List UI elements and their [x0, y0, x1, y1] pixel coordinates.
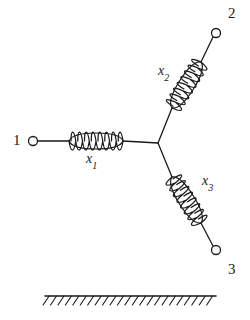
ground-hatch-tick	[88, 296, 94, 305]
spring-label-x2-subscript: 2	[164, 72, 169, 83]
node-3-marker	[212, 246, 221, 255]
spring-label-x1-subscript: 1	[92, 160, 97, 171]
ground-hatch-tick	[43, 296, 49, 305]
conn-spring2-node2	[201, 37, 213, 62]
spring-label-x3-subscript: 3	[208, 182, 213, 193]
ground-hatch-tick	[73, 296, 79, 305]
ground-hatch-tick	[192, 296, 198, 305]
ground-hatch-tick	[177, 296, 183, 305]
ground-hatch-tick	[110, 296, 116, 305]
spring-x2-coils	[166, 59, 207, 110]
spring-label-x3: x3	[202, 174, 213, 191]
ground-hatch-tick	[169, 296, 175, 305]
ground-hatch-tick	[155, 296, 161, 305]
ground-hatch-tick	[140, 296, 146, 305]
conn-junction-spring2	[158, 108, 172, 143]
spring-label-x1: x1	[86, 152, 97, 169]
ground-hatch-tick	[184, 296, 190, 305]
ground-hatch-tick	[58, 296, 64, 305]
figure-canvas: 1 2 3 x1 x2 x3	[0, 0, 250, 320]
ground-hatch-tick	[117, 296, 123, 305]
spring-label-x2: x2	[158, 64, 169, 81]
ground-hatch-tick	[199, 296, 205, 305]
ground-hatch-tick	[147, 296, 153, 305]
ground-hatch-tick	[162, 296, 168, 305]
ground-hatch-tick	[207, 296, 213, 305]
spring-x3-coils	[166, 175, 207, 225]
ground-hatch-tick	[132, 296, 138, 305]
conn-spring1-junction	[123, 141, 158, 143]
ground-hatch-tick	[51, 296, 57, 305]
ground-hatch-tick	[80, 296, 86, 305]
node-label-3: 3	[228, 262, 236, 277]
conn-spring3-node3	[201, 223, 213, 246]
spring-system-diagram	[0, 0, 250, 320]
ground-hatch-tick	[103, 296, 109, 305]
conn-junction-spring3	[158, 143, 172, 177]
node-label-1: 1	[13, 133, 21, 148]
node-1-marker	[29, 137, 38, 146]
node-2-marker	[212, 29, 221, 38]
node-label-2: 2	[228, 6, 236, 21]
ground-hatch-tick	[95, 296, 101, 305]
ground-hatch-tick	[65, 296, 71, 305]
ground-hatch-tick	[125, 296, 131, 305]
